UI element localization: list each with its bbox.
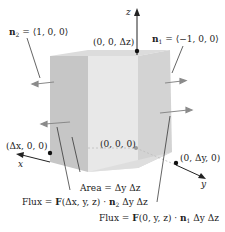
cube-right-face <box>138 50 172 168</box>
x-axis-label: x <box>18 160 23 169</box>
point-x-corner <box>48 151 52 155</box>
point-origin-label: (0, 0, 0) <box>100 140 136 149</box>
point-top <box>135 49 139 53</box>
y-axis <box>176 165 200 176</box>
flux-back-label: Flux = F(0, y, z) · n1 Δy Δz <box>99 214 219 224</box>
point-y-corner <box>174 161 178 165</box>
point-y-corner-label: (0, Δy, 0) <box>180 154 220 163</box>
normal-n1-label: n1 = ⟨−1, 0, 0⟩ <box>152 35 219 45</box>
area-label: Area = Δy Δz <box>80 184 140 193</box>
point-x-corner-label: (Δx, 0, 0) <box>6 142 48 151</box>
z-axis-label: z <box>126 8 131 17</box>
flux-front-label: Flux = F(Δx, y, z) · n2 Δy Δz <box>22 198 148 208</box>
z-axis-arrowhead-icon <box>134 8 140 16</box>
y-axis-label: y <box>201 180 206 189</box>
point-top-label: (0, 0, Δz) <box>93 38 134 47</box>
normal-n2-label: n2 = ⟨1, 0, 0⟩ <box>9 28 68 38</box>
cube-front-face <box>50 56 88 172</box>
x-axis-arrowhead-icon <box>16 152 24 158</box>
cube-middle-face <box>88 56 138 172</box>
x-axis <box>22 155 50 162</box>
